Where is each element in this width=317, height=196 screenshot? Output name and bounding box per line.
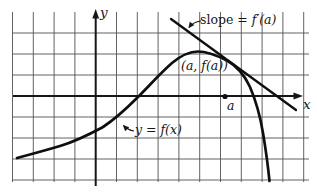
y-axis-label: y: [100, 5, 108, 19]
slope-label: slope = f′(a): [200, 13, 276, 27]
curve-equation-label: y = f(x): [135, 123, 182, 137]
slope-label-prefix: slope =: [200, 12, 252, 27]
y-axis-arrowhead-icon: [92, 9, 99, 19]
grid-lines-horizontal: [12, 33, 309, 180]
curve-label-arrow-icon: [124, 126, 135, 132]
function-curve: [17, 52, 270, 182]
slope-label-math: f′(a): [252, 12, 277, 27]
tangent-point-label: (a, f(a)): [181, 59, 228, 73]
x-axis-arrowhead-icon: [294, 93, 304, 100]
calculus-tangent-line-figure: y x slope = f′(a) (a, f(a)) y = f(x) a: [0, 0, 317, 196]
graph-canvas: [0, 0, 317, 196]
point-a-label: a: [227, 99, 234, 113]
x-axis-label: x: [303, 97, 311, 111]
